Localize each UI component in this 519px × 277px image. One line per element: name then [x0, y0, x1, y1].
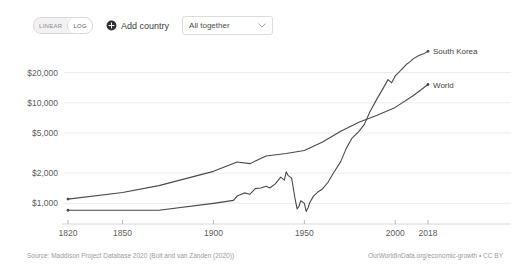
scale-option-linear-label: LINEAR [39, 23, 62, 29]
scale-option-log-label: LOG [73, 23, 87, 29]
series-endpoint-marker [427, 50, 430, 53]
add-country-label: Add country [121, 21, 169, 31]
series-endpoint-marker [427, 83, 430, 86]
chart-footer: Source: Maddison Project Database 2020 (… [0, 252, 519, 266]
x-axis-tick-label: 2000 [386, 228, 405, 238]
x-axis-tick-label: 1820 [59, 228, 78, 238]
chart-plot-area: $1,000$2,000$5,000$10,000$20,000 1820185… [0, 44, 519, 250]
axis-scale-toggle[interactable]: LINEAR LOG [33, 17, 93, 34]
chart-page: LINEAR LOG Add country All together $1, [0, 0, 519, 277]
y-axis-tick-label: $5,000 [32, 128, 58, 138]
scale-option-linear[interactable]: LINEAR [34, 18, 67, 33]
scale-option-log[interactable]: LOG [67, 18, 92, 33]
y-axis-tick-label: $2,000 [32, 168, 58, 178]
plus-circle-icon [106, 20, 117, 31]
credit-note[interactable]: OurWorldInData.org/economic-growth • CC … [368, 252, 503, 259]
series-label-south-korea[interactable]: South Korea [433, 47, 478, 56]
add-country-button[interactable]: Add country [106, 20, 169, 31]
series-start-marker [67, 198, 70, 201]
x-axis-tick-label: 1900 [204, 228, 223, 238]
y-axis-tick-label: $1,000 [32, 198, 58, 208]
y-axis-tick-label: $20,000 [27, 68, 58, 78]
x-axis-tick-labels: 182018501900195020002018 [59, 228, 438, 238]
series-label-world[interactable]: World [433, 81, 454, 90]
series-line[interactable] [68, 85, 428, 200]
x-axis-tick-label: 1950 [295, 228, 314, 238]
source-note: Source: Maddison Project Database 2020 (… [27, 252, 234, 259]
chart-controls-toolbar: LINEAR LOG Add country All together [33, 16, 273, 35]
gridlines-group [64, 73, 511, 204]
series-line[interactable] [68, 51, 428, 211]
x-axis-tick-label: 1850 [113, 228, 132, 238]
data-series-group [67, 50, 430, 212]
series-start-marker [67, 209, 70, 212]
chevron-down-icon [258, 23, 266, 28]
country-display-mode-select[interactable]: All together [182, 16, 273, 35]
y-axis-tick-labels: $1,000$2,000$5,000$10,000$20,000 [27, 68, 58, 209]
gdp-per-capita-line-chart: $1,000$2,000$5,000$10,000$20,000 1820185… [0, 44, 519, 250]
x-axis-tick-label: 2018 [419, 228, 438, 238]
y-axis-tick-label: $10,000 [27, 98, 58, 108]
country-display-mode-value: All together [189, 21, 229, 30]
series-endpoint-labels: WorldSouth Korea [433, 47, 478, 89]
x-axis-group [62, 220, 511, 224]
